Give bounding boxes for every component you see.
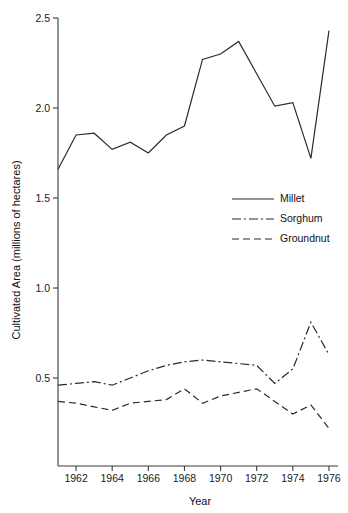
chart-legend: MilletSorghumGroundnut [232,192,330,244]
x-tick-label: 1962 [64,472,88,484]
x-tick-label: 1964 [101,472,125,484]
x-axis-title: Year [189,495,212,507]
y-tick-label: 1.5 [35,192,50,204]
y-tick-label: 0.5 [35,372,50,384]
x-tick-label: 1968 [173,472,197,484]
line-chart: 0.51.01.52.02.5 196219641966196819701972… [0,0,348,513]
legend-label-groundnut: Groundnut [280,232,330,244]
y-tick-label: 2.5 [35,12,50,24]
series-line-groundnut [58,389,329,429]
y-tick-label: 2.0 [35,102,50,114]
x-tick-label: 1966 [137,472,161,484]
x-tick-label: 1970 [209,472,233,484]
chart-container: 0.51.01.52.02.5 196219641966196819701972… [0,0,348,513]
series-line-sorghum [58,322,329,385]
legend-label-sorghum: Sorghum [280,212,323,224]
x-tick-label: 1974 [281,472,305,484]
y-tick-label: 1.0 [35,282,50,294]
series-line-millet [58,31,329,170]
y-axis-title: Cultivated Area (millions of hectares) [10,160,22,339]
legend-label-millet: Millet [280,192,305,204]
x-tick-label: 1976 [317,472,341,484]
data-series-group [58,31,329,429]
x-axis-ticks: 19621964196619681970197219741976 [64,466,340,484]
x-tick-label: 1972 [245,472,269,484]
y-axis-ticks: 0.51.01.52.02.5 [35,12,58,384]
